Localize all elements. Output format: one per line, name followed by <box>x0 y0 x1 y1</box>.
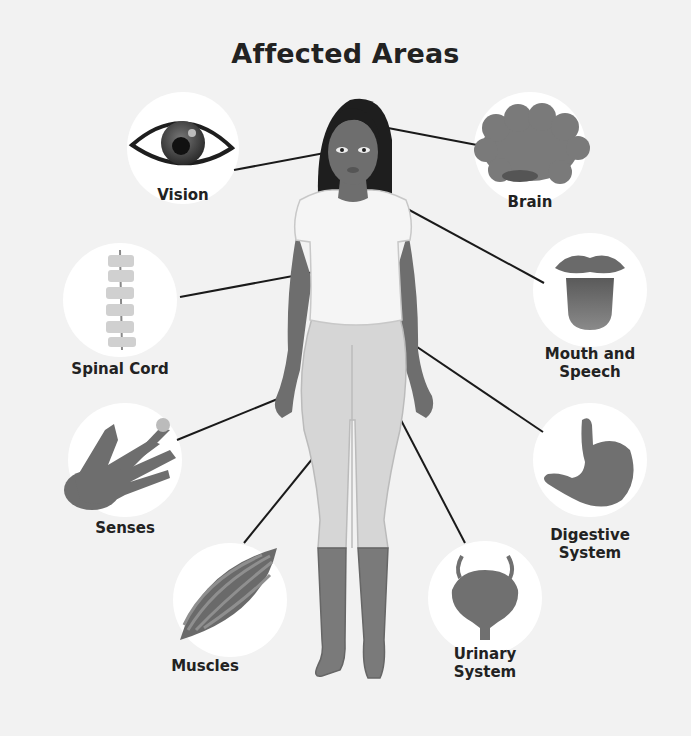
label-vision: Vision <box>140 186 226 204</box>
label-digestive-system: System <box>530 544 650 562</box>
line-brain <box>388 128 477 145</box>
woman-figure <box>275 99 433 678</box>
line-senses <box>177 398 280 440</box>
label-brain: Brain <box>490 193 570 211</box>
label-senses: Senses <box>85 519 165 537</box>
label-urinary: Urinary <box>440 645 530 663</box>
label-speech: Speech <box>530 363 650 381</box>
line-vision <box>234 152 330 170</box>
label-urinary-system: System <box>440 663 530 681</box>
label-mouth-and: Mouth and <box>530 345 650 363</box>
label-digestive: Digestive <box>530 526 650 544</box>
label-muscles: Muscles <box>160 657 250 675</box>
label-spinal-cord: Spinal Cord <box>50 360 190 378</box>
